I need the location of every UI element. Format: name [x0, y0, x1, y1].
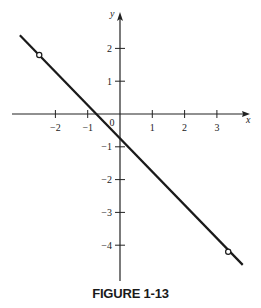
x-axis-label: x	[245, 114, 251, 125]
y-tick-label: −4	[101, 240, 112, 251]
figure-caption: FIGURE 1-13	[0, 286, 261, 301]
line-series	[20, 35, 243, 265]
y-tick-label: 1	[107, 76, 112, 87]
x-tick-label: −2	[50, 122, 61, 133]
y-tick-label: −1	[101, 141, 112, 152]
y-tick-label: −3	[101, 207, 112, 218]
open-circle-point	[226, 249, 231, 254]
x-tick-label: 2	[182, 122, 187, 133]
chart-canvas: xy −2−112321−1−2−3−40	[0, 0, 261, 308]
y-tick-label: −2	[101, 174, 112, 185]
y-axis-label: y	[109, 8, 115, 19]
origin-label: 0	[110, 117, 115, 128]
open-circle-point	[37, 52, 42, 57]
ticks: −2−112321−1−2−3−40	[50, 43, 219, 251]
x-tick-label: 1	[150, 122, 155, 133]
axes: xy	[12, 8, 251, 281]
data-line	[20, 35, 243, 265]
x-tick-label: 3	[214, 122, 219, 133]
y-tick-label: 2	[107, 43, 112, 54]
x-tick-label: −1	[82, 122, 93, 133]
